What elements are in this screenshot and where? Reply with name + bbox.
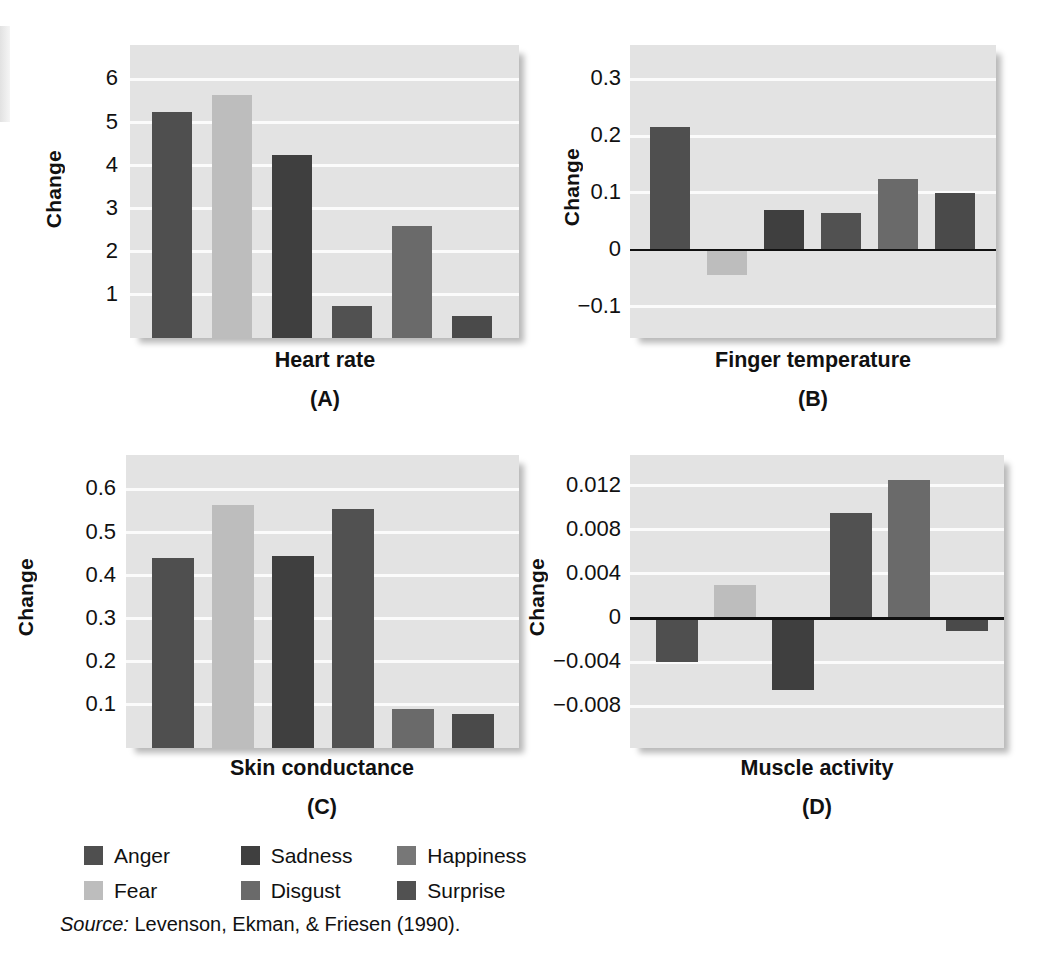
bar-anger (656, 618, 698, 662)
legend-swatch-icon (397, 881, 416, 900)
panel-d-x-title: Muscle activity (677, 756, 957, 781)
legend-item-sadness[interactable]: Sadness (241, 845, 398, 866)
bar-anger (152, 112, 192, 338)
panel-a: Change 123456 Heart rate (A) (0, 0, 529, 420)
bar-fear (212, 95, 252, 338)
y-tick-label: 0.008 (521, 518, 621, 540)
y-tick-label: 0.4 (16, 564, 116, 586)
source-prefix: Source: (60, 913, 129, 935)
bar-sadness (272, 155, 312, 338)
bar-happiness (821, 213, 861, 250)
panel-d-bars (630, 455, 1004, 748)
legend-swatch-icon (241, 846, 260, 865)
y-tick-label: 0.1 (16, 693, 116, 715)
panel-c: Change 0.10.20.30.40.50.6 Skin conductan… (0, 410, 529, 830)
bar-happiness (332, 509, 374, 748)
legend: Anger Sadness Happiness Fear Disgust (84, 838, 554, 908)
panel-c-label: (C) (182, 795, 462, 820)
y-tick-label: 5 (18, 111, 118, 133)
legend-swatch-icon (84, 846, 103, 865)
y-tick-label: 0.6 (16, 477, 116, 499)
figure-emotion-physiology: Change 123456 Heart rate (A) Change −0.1… (0, 0, 1058, 972)
bar-sadness (772, 618, 814, 690)
legend-item-disgust[interactable]: Disgust (241, 880, 398, 901)
bar-surprise (935, 193, 975, 250)
y-tick-label: 6 (18, 67, 118, 89)
panel-c-plot-canvas (126, 455, 519, 748)
bar-anger (152, 558, 194, 748)
y-tick-label: 0.1 (521, 181, 621, 203)
legend-item-label: Happiness (427, 845, 526, 866)
y-tick-label: 0.3 (521, 67, 621, 89)
y-tick-label: 0.5 (16, 521, 116, 543)
bar-sadness (272, 556, 314, 748)
panel-c-plot-area (126, 455, 519, 748)
bar-surprise (452, 316, 492, 338)
y-tick-label: 0.2 (521, 124, 621, 146)
panel-b: Change −0.100.10.20.3 Finger temperature… (529, 0, 1058, 420)
y-tick-label: 4 (18, 154, 118, 176)
panel-c-x-title: Skin conductance (182, 756, 462, 781)
source-citation: Levenson, Ekman, & Friesen (1990). (135, 913, 461, 935)
bar-disgust (878, 179, 918, 250)
legend-item-label: Anger (114, 845, 170, 866)
panel-b-x-title: Finger temperature (673, 348, 953, 373)
bar-surprise (452, 714, 494, 748)
y-tick-label: 0.2 (16, 650, 116, 672)
y-tick-label: −0.1 (521, 295, 621, 317)
panel-c-bars (126, 455, 519, 748)
panel-d-label: (D) (677, 795, 957, 820)
y-tick-label: 2 (18, 240, 118, 262)
bar-fear (707, 250, 747, 276)
panel-d-plot-canvas (630, 455, 1004, 748)
zero-axis-line (630, 249, 996, 252)
bar-disgust (392, 226, 432, 338)
bar-disgust (888, 480, 930, 618)
panel-b-plot-area (630, 45, 996, 338)
panel-b-bars (630, 45, 996, 338)
legend-swatch-icon (241, 881, 260, 900)
panel-b-label: (B) (673, 387, 953, 412)
y-tick-label: 0 (521, 238, 621, 260)
y-tick-label: 0 (521, 606, 621, 628)
bar-sadness (764, 210, 804, 250)
legend-swatch-icon (84, 881, 103, 900)
panel-a-plot-canvas (130, 45, 519, 338)
bar-fear (212, 505, 254, 748)
panel-a-label: (A) (185, 387, 465, 412)
bar-surprise (946, 618, 988, 631)
y-tick-label: −0.008 (521, 694, 621, 716)
y-tick-label: 0.004 (521, 562, 621, 584)
legend-row: Fear Disgust Surprise (84, 873, 554, 908)
bar-fear (714, 585, 756, 618)
panel-a-bars (130, 45, 519, 338)
legend-item-label: Disgust (271, 880, 341, 901)
panel-d: Change −0.008−0.00400.0040.0080.012 Musc… (529, 410, 1058, 830)
legend-row: Anger Sadness Happiness (84, 838, 554, 873)
legend-item-label: Sadness (271, 845, 353, 866)
y-tick-label: 1 (18, 283, 118, 305)
bar-disgust (392, 709, 434, 748)
legend-item-happiness[interactable]: Happiness (397, 845, 554, 866)
source-caption: Source: Levenson, Ekman, & Friesen (1990… (60, 913, 460, 936)
panel-a-plot-area (130, 45, 519, 338)
y-tick-label: −0.004 (521, 650, 621, 672)
y-tick-label: 3 (18, 197, 118, 219)
bar-happiness (332, 306, 372, 338)
legend-item-fear[interactable]: Fear (84, 880, 241, 901)
legend-item-surprise[interactable]: Surprise (397, 880, 554, 901)
legend-swatch-icon (397, 846, 416, 865)
legend-item-label: Surprise (427, 880, 505, 901)
panel-d-plot-area (630, 455, 1004, 748)
legend-item-label: Fear (114, 880, 157, 901)
bar-anger (650, 127, 690, 249)
panel-a-x-title: Heart rate (185, 348, 465, 373)
y-tick-label: 0.3 (16, 607, 116, 629)
panel-b-plot-canvas (630, 45, 996, 338)
y-tick-label: 0.012 (521, 474, 621, 496)
legend-item-anger[interactable]: Anger (84, 845, 241, 866)
bar-happiness (830, 513, 872, 618)
zero-axis-line (630, 617, 1004, 620)
